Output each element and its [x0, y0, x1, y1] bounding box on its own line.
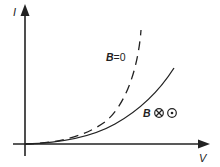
x-axis-arrow-icon — [198, 140, 210, 149]
b-zero-rest: =0 — [114, 51, 126, 63]
y-axis-label: I — [13, 6, 16, 18]
b-symbol: B — [143, 107, 151, 119]
iv-diagram: I V B=0 B — [0, 0, 220, 167]
curve-label-b-zero: B=0 — [106, 51, 126, 63]
curve-b-applied — [25, 68, 174, 144]
into-page-icon — [155, 109, 164, 118]
curve-label-b-applied: B — [143, 107, 151, 119]
out-of-page-icon — [168, 109, 177, 118]
y-axis-arrow-icon — [21, 4, 30, 16]
x-axis-label: V — [199, 152, 208, 164]
curve-b-zero — [25, 30, 141, 144]
